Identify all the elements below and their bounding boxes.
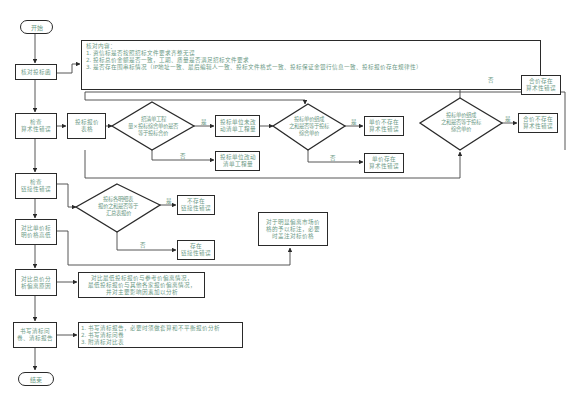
yes-label: 是 bbox=[201, 118, 207, 126]
link-error-box: 存在 链接性错误 bbox=[177, 240, 215, 260]
yes-label: 是 bbox=[351, 118, 357, 126]
qty-changed-box: 投标单位改动 清单工程量 bbox=[215, 151, 260, 171]
total-price-no-error-box: 合价不存在 算术性错误 bbox=[518, 113, 558, 133]
no-label: 否 bbox=[140, 241, 146, 249]
step-compare-unit-price: 对比单价标 明价格高低 bbox=[15, 219, 57, 245]
start-terminal: 开始 bbox=[20, 20, 53, 34]
yes-label: 是 bbox=[166, 197, 172, 205]
check-content-item: 1. 资信标是否按照招标文件要求齐整无误 bbox=[86, 50, 195, 57]
check-content-item: 3. 是否存在围串标情况（IP地址一致、最后编辑人一致、投标文件格式一致、投标保… bbox=[86, 64, 422, 71]
link-diamond-text: 投标各明细表 报价之和是否等于 汇总表报价 bbox=[82, 194, 154, 219]
no-label: 否 bbox=[330, 154, 336, 162]
check-content-title: 核对内容： bbox=[86, 43, 116, 50]
report-items-box: 1. 书写清标报告，必要时须做套算和不平衡报价分析 2. 书写清标问卷 3. 附… bbox=[78, 322, 243, 348]
deviation-line: 对比最低投标报价与参考价偏离情况， bbox=[91, 275, 193, 282]
report-item: 2. 书写清标问卷 bbox=[81, 332, 124, 339]
unit-price-no-error-box: 单价不存在 算术性错误 bbox=[364, 116, 404, 136]
unit-price-error-box: 单价存在 算术性错误 bbox=[364, 153, 404, 173]
no-label: 否 bbox=[488, 76, 494, 84]
deviation-analysis-box: 对比最低投标报价与参考价偏离情况， 最低投标报价与其他各家报价偏离情况， 并对主… bbox=[78, 272, 205, 298]
check-content-item: 2. 投标总价金额是否一致，工期、质量是否满足招标文件要求 bbox=[86, 57, 249, 64]
check-content-box: 核对内容： 1. 资信标是否按照招标文件要求齐整无误 2. 投标总价金额是否一致… bbox=[81, 40, 541, 90]
yes-label: 是 bbox=[505, 115, 511, 123]
deviation-line: 最低投标报价与其他各家报价偏离情况， bbox=[88, 282, 196, 289]
flowchart-canvas: 开始 结束 核对投标函 检查 算术性错误 检查 链接性错误 对比单价标 明价格高… bbox=[0, 0, 569, 398]
bid-price-table-box: 投标报价 表格 bbox=[67, 113, 106, 139]
report-item: 3. 附清标对比表 bbox=[81, 339, 124, 346]
total-price-error-box: 合价存在 算术性错误 bbox=[521, 75, 561, 95]
report-item: 1. 书写清标报告，必要时须做套算和不平衡报价分析 bbox=[81, 325, 220, 332]
no-link-error-box: 不存在 链接性错误 bbox=[177, 195, 215, 215]
step-check-bid-letter: 核对投标函 bbox=[15, 64, 57, 80]
deviation-line: 并对主要影响因素加以分析 bbox=[106, 289, 178, 296]
step-write-report: 书写清标问 卷、清标报告 bbox=[13, 322, 57, 348]
diamond3-text: 投标单价组成 之和是否等于投标 综合单价 bbox=[423, 110, 498, 135]
qty-unchanged-box: 投标单位未改 动清单工程量 bbox=[215, 115, 260, 137]
step-check-link-error: 检查 链接性错误 bbox=[15, 173, 57, 199]
unit-price-note-box: 对于明显偏离市场价 格的予以标注，必要 时盖注对标价格 bbox=[258, 212, 328, 246]
end-terminal: 结束 bbox=[18, 372, 54, 386]
diamond1-text: 招清单工程 量×投标综合单价是否 等于投标合价 bbox=[116, 112, 190, 140]
diamond2-text: 投标单价组成 之和是否等于投标 综合单价 bbox=[276, 114, 342, 139]
step-check-arithmetic-error: 检查 算术性错误 bbox=[15, 113, 57, 139]
step-compare-total-price: 对比总价分 析偏离原因 bbox=[15, 269, 57, 296]
no-label: 否 bbox=[180, 152, 186, 160]
